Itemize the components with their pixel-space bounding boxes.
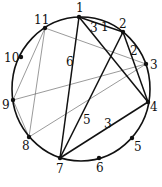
thick-edge-1-7	[60, 17, 79, 158]
edge-weight-label: 6	[66, 55, 74, 69]
node-label: 7	[56, 162, 64, 176]
edge-weight-label: 3	[90, 21, 98, 35]
node-label: 11	[34, 13, 49, 27]
node-label: 4	[150, 100, 158, 114]
circular-graph-diagram: 1234567891011 613253	[0, 0, 162, 187]
node-label: 8	[22, 139, 30, 153]
edge-weight-label: 2	[130, 44, 138, 58]
thin-edge-11-8	[29, 28, 45, 137]
node-3-dot	[144, 62, 148, 66]
node-label: 1	[76, 1, 84, 15]
node-label: 3	[150, 58, 158, 72]
edge-weight-label: 3	[104, 117, 112, 131]
edge-weight-label: 1	[101, 20, 109, 34]
outer-circle	[12, 17, 150, 161]
node-label: 2	[119, 17, 127, 31]
node-1-dot	[77, 15, 81, 19]
node-label: 9	[2, 98, 10, 112]
node-label: 5	[134, 140, 142, 154]
thin-edge-9-3	[13, 64, 146, 100]
node-label: 10	[4, 51, 19, 65]
node-7-dot	[58, 156, 62, 160]
thick-edge-2-7	[60, 32, 123, 158]
nodes: 1234567891011	[2, 1, 158, 176]
node-10-dot	[19, 55, 23, 59]
thick-edge-2-4	[123, 32, 148, 102]
edge-weight-label: 5	[83, 113, 91, 127]
node-label: 6	[96, 161, 104, 175]
node-6-dot	[97, 156, 101, 160]
node-9-dot	[11, 98, 15, 102]
thin-edge-9-8	[13, 100, 29, 137]
